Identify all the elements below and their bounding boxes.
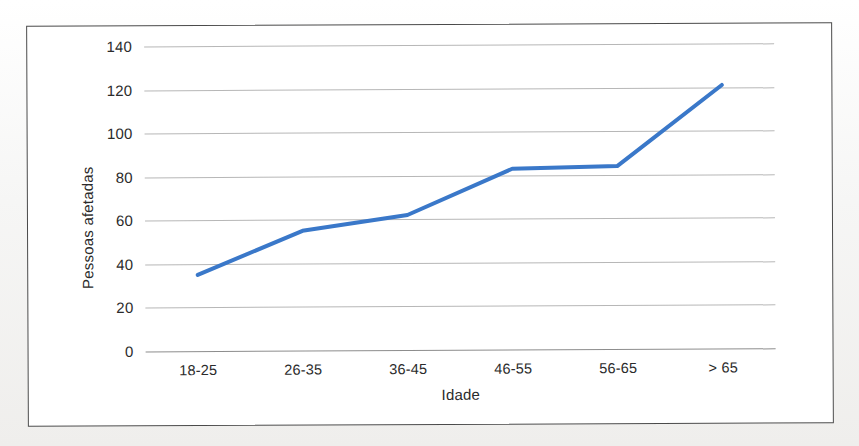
y-tick-label: 100 xyxy=(107,125,133,142)
series-polyline xyxy=(197,85,723,275)
y-tick-label: 60 xyxy=(116,212,133,229)
x-axis-title: Idade xyxy=(146,384,776,404)
x-tick-label: 18-25 xyxy=(179,362,217,378)
y-tick-label: 120 xyxy=(107,82,133,99)
y-tick-label: 140 xyxy=(106,38,132,55)
y-axis-title: Pessoas afetadas xyxy=(79,133,97,323)
plot-area: 020406080100120140 18-2526-3536-4546-555… xyxy=(144,43,775,351)
y-tick-label: 40 xyxy=(116,256,133,273)
y-tick-label: 0 xyxy=(125,343,134,360)
x-tick-label: 36-45 xyxy=(389,361,427,377)
x-tick-label: 56-65 xyxy=(599,360,637,376)
x-tick-label: > 65 xyxy=(708,359,738,375)
y-tick-label: 20 xyxy=(116,299,133,316)
x-tick-label: 46-55 xyxy=(494,361,532,377)
chart-skew-wrapper: Pessoas afetadas 020406080100120140 18-2… xyxy=(26,22,834,427)
series-line-chart xyxy=(144,43,775,351)
y-tick-label: 80 xyxy=(116,169,133,186)
scanned-page: Pessoas afetadas 020406080100120140 18-2… xyxy=(0,0,859,446)
x-tick-label: 26-35 xyxy=(284,362,322,378)
line-chart: Pessoas afetadas 020406080100120140 18-2… xyxy=(27,24,833,425)
